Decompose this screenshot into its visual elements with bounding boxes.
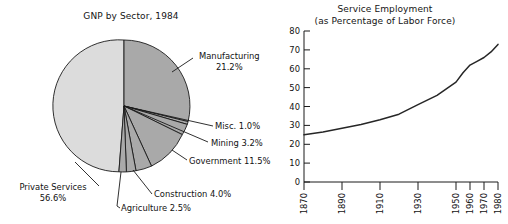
pie-slice-private-services — [53, 40, 124, 172]
pie-label-private-services-value: 56.6% — [6, 193, 100, 204]
pie-label-manufacturing: Manufacturing 21.2% — [199, 51, 260, 72]
line-chart-panel: Service Employment (as Percentage of Lab… — [262, 0, 508, 224]
leader-line-agriculture-elbow — [117, 206, 120, 208]
figure-root: GNP by Sector, 1984 — [0, 0, 508, 224]
leader-line-government — [172, 150, 187, 160]
pie-label-manufacturing-name: Manufacturing — [199, 51, 260, 62]
x-tick-label-1870: 1870 — [299, 193, 309, 214]
x-tick-label-1950: 1950 — [451, 193, 461, 214]
y-tick-label-10: 10 — [289, 158, 300, 168]
x-tick-label-1980: 1980 — [493, 193, 503, 214]
x-tick-label-1890: 1890 — [337, 193, 347, 214]
line-chart-title-line2: (as Percentage of Labor Force) — [262, 16, 508, 28]
pie-label-private-services: Private Services 56.6% — [6, 182, 100, 203]
leader-line-agriculture — [117, 172, 121, 206]
x-axis-ticks — [304, 182, 498, 190]
x-tick-label-1970: 1970 — [479, 193, 489, 214]
x-tick-label-1910: 1910 — [375, 193, 385, 214]
pie-label-manufacturing-value: 21.2% — [199, 62, 260, 73]
pie-slices — [53, 40, 190, 172]
pie-chart-panel: GNP by Sector, 1984 — [0, 0, 262, 224]
y-tick-label-30: 30 — [289, 120, 300, 130]
line-chart-graphic: 80 70 60 50 40 30 20 10 0 — [262, 0, 508, 224]
y-axis-tick-labels: 80 70 60 50 40 30 20 10 0 — [289, 26, 300, 187]
y-tick-label-50: 50 — [289, 83, 300, 93]
y-tick-label-0: 0 — [295, 177, 300, 187]
pie-chart-title: GNP by Sector, 1984 — [0, 11, 262, 21]
leader-line-construction — [133, 170, 152, 194]
y-tick-label-40: 40 — [289, 102, 300, 112]
pie-label-government: Government 11.5% — [189, 156, 271, 167]
pie-label-private-services-name: Private Services — [6, 182, 100, 193]
x-tick-label-1930: 1930 — [413, 193, 423, 214]
pie-label-agriculture: Agriculture 2.5% — [121, 203, 191, 214]
line-chart-title: Service Employment (as Percentage of Lab… — [262, 4, 508, 27]
y-tick-label-20: 20 — [289, 139, 300, 149]
pie-label-mining: Mining 3.2% — [211, 138, 263, 149]
pie-label-construction: Construction 4.0% — [154, 189, 231, 200]
y-tick-label-70: 70 — [289, 45, 300, 55]
service-employment-line — [304, 44, 498, 134]
x-tick-label-1960: 1960 — [465, 193, 475, 214]
x-axis-tick-labels: 1870 1890 1910 1930 1950 1960 1970 1980 — [299, 193, 503, 214]
line-chart-title-line1: Service Employment — [262, 4, 508, 16]
y-tick-label-80: 80 — [289, 26, 300, 36]
y-axis-ticks — [304, 31, 310, 182]
pie-label-misc: Misc. 1.0% — [215, 121, 260, 132]
line-chart-axes — [304, 31, 498, 182]
y-tick-label-60: 60 — [289, 64, 300, 74]
